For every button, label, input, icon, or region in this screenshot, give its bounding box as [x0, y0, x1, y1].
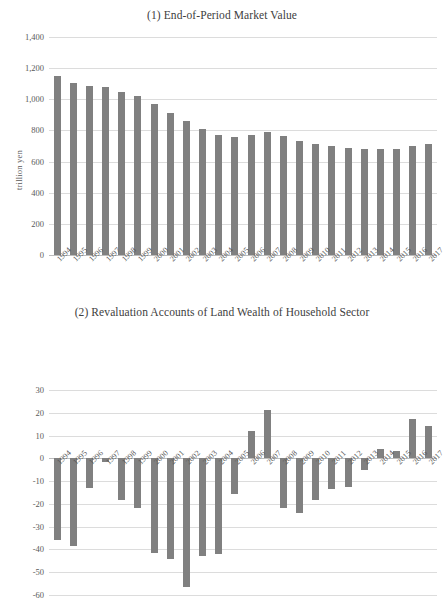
chart-2-xaxis-labels: 1994199519961997199819992000200120022003… — [49, 458, 437, 498]
bar — [361, 149, 368, 255]
y-axis-tick-label: 1,400 — [25, 33, 44, 42]
bar — [134, 96, 141, 255]
bar — [215, 135, 222, 255]
chart-1-title: (1) End-of-Period Market Value — [0, 9, 444, 21]
y-axis-tick-label: -10 — [33, 477, 44, 486]
bar — [393, 149, 400, 255]
bar — [312, 144, 319, 255]
y-axis-tick-label: 30 — [36, 386, 45, 395]
bar — [231, 137, 238, 255]
bar — [199, 129, 206, 255]
y-axis-tick-label: -50 — [33, 568, 44, 577]
y-axis-tick-label: 800 — [31, 126, 44, 135]
bar — [296, 141, 303, 255]
chart-2-title: (2) Revaluation Accounts of Land Wealth … — [0, 306, 444, 318]
gridline — [49, 595, 437, 596]
bar — [102, 87, 109, 255]
bar — [328, 146, 335, 255]
bar — [264, 132, 271, 255]
chart-panel-1: (1) End-of-Period Market Value trillion … — [0, 0, 444, 300]
y-axis-tick-label: -20 — [33, 500, 44, 509]
y-axis-tick-label: -30 — [33, 522, 44, 531]
y-axis-tick-label: 200 — [31, 220, 44, 229]
y-axis-tick-label: 600 — [31, 157, 44, 166]
y-axis-tick-label: 20 — [36, 409, 45, 418]
bar — [409, 146, 416, 255]
bar — [425, 144, 432, 255]
y-axis-tick-label: 1,200 — [25, 64, 44, 73]
bar — [377, 149, 384, 255]
bar — [248, 135, 255, 255]
chart-2-plot-area: 3020100-10-20-30-40-50-60 19941995199619… — [49, 390, 437, 595]
bar — [280, 136, 287, 255]
bar — [345, 148, 352, 255]
bar — [86, 86, 93, 255]
bar — [118, 92, 125, 255]
y-axis-tick-label: 400 — [31, 188, 44, 197]
chart-1-ylabel: trillion yen — [14, 150, 24, 190]
y-axis-tick-label: 0 — [40, 454, 44, 463]
bar — [54, 76, 61, 255]
bar — [151, 104, 158, 255]
bar — [264, 410, 271, 458]
bar — [70, 83, 77, 255]
y-axis-tick-label: -60 — [33, 591, 44, 600]
chart-1-plot-area: 02004006008001,0001,2001,400 19941995199… — [49, 37, 437, 255]
bar — [167, 113, 174, 255]
chart-1-xaxis-labels: 1994199519961997199819992000200120022003… — [49, 255, 437, 295]
y-axis-tick-label: 1,000 — [25, 95, 44, 104]
y-axis-tick-label: 0 — [40, 251, 44, 260]
y-axis-tick-label: -40 — [33, 545, 44, 554]
y-axis-tick-label: 10 — [36, 431, 45, 440]
chart-1-bars — [49, 37, 437, 255]
bar — [183, 121, 190, 255]
